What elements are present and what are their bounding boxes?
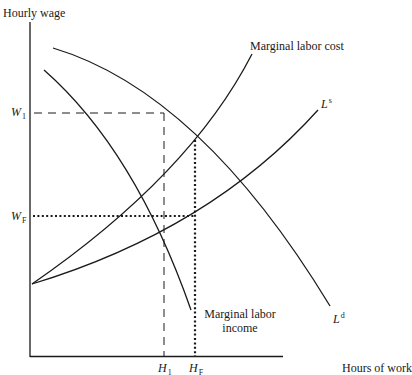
marginal-labor-income-curve	[44, 70, 191, 310]
tick-w1-main: W	[11, 105, 21, 119]
marginal-labor-income-label: Marginal labor income	[202, 308, 278, 334]
marginal-labor-cost-label: Marginal labor cost	[250, 40, 344, 52]
tick-hf-sub: F	[199, 368, 203, 375]
marginal-labor-income-line1: Marginal labor	[202, 308, 278, 320]
labor-demand-curve	[53, 48, 330, 306]
labor-demand-main: L	[333, 312, 340, 326]
labor-supply-sup: s	[329, 96, 332, 105]
labor-supply-main: L	[321, 97, 328, 111]
tick-h1-sub: 1	[168, 368, 172, 375]
y-axis-label: Hourly wage	[3, 7, 65, 19]
tick-h1-main: H	[158, 361, 167, 375]
tick-w1-sub: 1	[22, 112, 26, 121]
labor-demand-label: Ld	[333, 313, 345, 325]
marginal-labor-cost-curve	[32, 54, 252, 284]
tick-hf-main: H	[189, 361, 198, 375]
marginal-labor-income-line2: income	[202, 322, 278, 334]
tick-wf-main: W	[11, 209, 21, 223]
labor-demand-sup: d	[341, 311, 345, 320]
x-axis-label: Hours of work	[342, 362, 412, 374]
tick-wf: WF	[11, 210, 26, 222]
tick-h1: H1	[158, 362, 172, 374]
tick-wf-sub: F	[22, 216, 26, 225]
labor-supply-label: Ls	[321, 98, 332, 110]
labor-supply-curve	[32, 110, 318, 284]
tick-hf: HF	[189, 362, 203, 374]
tick-w1: W1	[11, 106, 26, 118]
